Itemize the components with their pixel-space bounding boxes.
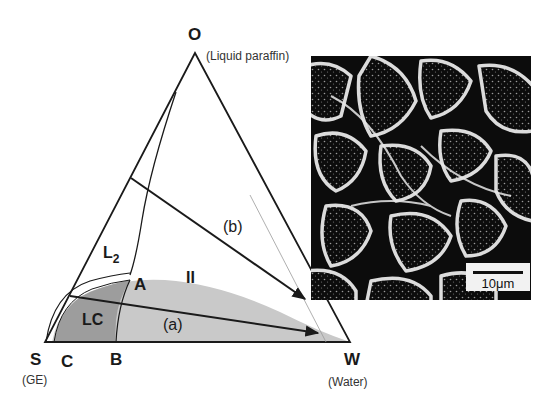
point-B-label: B xyxy=(110,350,122,369)
region-L2-label: L2 xyxy=(103,244,120,266)
point-C-label: C xyxy=(61,352,73,371)
scale-bar-line xyxy=(473,271,523,274)
vertex-O-label: O xyxy=(188,25,201,44)
path-a-label: (a) xyxy=(163,316,183,333)
vertex-S-label: S xyxy=(30,350,41,369)
vertex-O-sublabel: (Liquid paraffin) xyxy=(206,49,289,63)
scale-bar: 10μm xyxy=(466,263,530,291)
region-LC-label: LC xyxy=(82,311,104,328)
path-b-label: (b) xyxy=(223,218,243,235)
scale-bar-label: 10μm xyxy=(466,276,530,291)
vertex-W-sublabel: (Water) xyxy=(328,375,368,389)
region-II-label: II xyxy=(186,269,195,286)
boundary-L2 xyxy=(130,92,176,275)
vertex-S-sublabel: (GE) xyxy=(22,373,47,387)
vertex-W-label: W xyxy=(344,350,361,369)
point-A-label: A xyxy=(134,275,146,294)
